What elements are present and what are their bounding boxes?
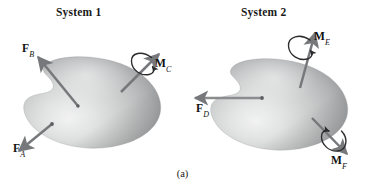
label-MC-symbol: M — [155, 57, 166, 69]
label-moment-MC: MC — [155, 58, 171, 72]
system-2-group — [195, 33, 348, 154]
label-moment-ME: ME — [314, 31, 330, 45]
figure-container: System 1 System 2 FB FA MC ME FD MF (a) — [0, 0, 365, 190]
label-force-FB: FB — [22, 43, 34, 57]
system-2-body — [211, 59, 348, 150]
label-force-FA: FA — [13, 143, 25, 157]
label-FA-subscript: A — [20, 150, 25, 159]
label-MF-symbol: M — [331, 154, 342, 166]
figure-caption: (a) — [0, 168, 365, 179]
label-FD-subscript: D — [203, 110, 209, 119]
label-FB-symbol: F — [22, 42, 29, 54]
label-force-FD: FD — [196, 103, 209, 117]
system-1-title: System 1 — [56, 6, 101, 18]
system-1-body — [24, 57, 161, 148]
label-FA-symbol: F — [13, 142, 20, 154]
system-2-title: System 2 — [241, 6, 286, 18]
label-ME-symbol: M — [314, 30, 325, 42]
label-FB-subscript: B — [29, 50, 34, 59]
label-FD-symbol: F — [196, 102, 203, 114]
system-1-group — [19, 53, 161, 151]
label-ME-subscript: E — [325, 38, 330, 47]
label-MC-subscript: C — [166, 65, 171, 74]
figure-graphics — [0, 0, 365, 190]
